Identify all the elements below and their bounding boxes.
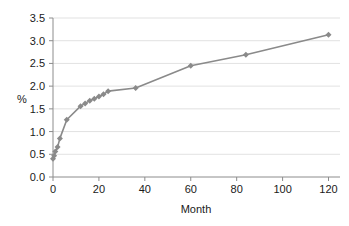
x-tick-label: 40 (139, 183, 151, 195)
y-tick-label: 1.5 (30, 103, 45, 115)
y-tick-label: 3.5 (30, 12, 45, 24)
y-tick-label: 0.0 (30, 171, 45, 183)
y-axis-title: % (17, 93, 27, 105)
x-tick-label: 0 (50, 183, 56, 195)
x-tick-label: 20 (93, 183, 105, 195)
y-tick-label: 1.0 (30, 126, 45, 138)
y-tick-label: 3.0 (30, 35, 45, 47)
data-point-marker (326, 32, 332, 38)
line-chart-plot: 0.00.51.01.52.02.53.03.5 020406080100120… (0, 0, 349, 226)
y-axis-ticks: 0.00.51.01.52.02.53.03.5 (30, 12, 53, 183)
y-tick-label: 0.5 (30, 148, 45, 160)
chart-container: 0.00.51.01.52.02.53.03.5 020406080100120… (0, 0, 349, 226)
series-markers (50, 32, 332, 162)
data-point-marker (243, 52, 249, 58)
x-axis-ticks: 020406080100120 (50, 177, 338, 195)
x-tick-label: 80 (231, 183, 243, 195)
x-tick-label: 120 (319, 183, 337, 195)
x-axis-title: Month (181, 203, 212, 215)
x-tick-label: 60 (185, 183, 197, 195)
data-point-marker (57, 135, 63, 141)
y-tick-label: 2.0 (30, 80, 45, 92)
gridlines (53, 18, 340, 154)
x-tick-label: 100 (273, 183, 291, 195)
y-tick-label: 2.5 (30, 57, 45, 69)
